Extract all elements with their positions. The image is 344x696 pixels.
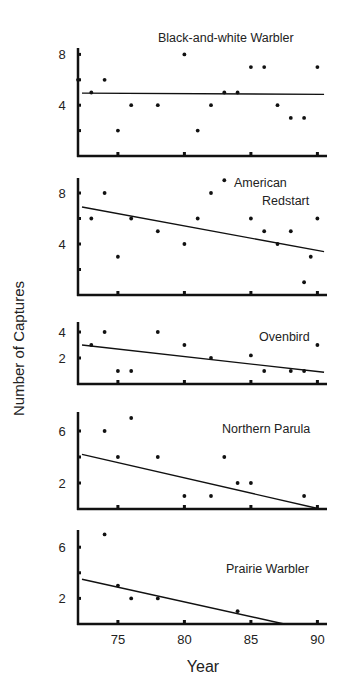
- y-tick-label: 4: [58, 325, 65, 340]
- x-tick-mark: [249, 380, 252, 384]
- data-point: [236, 609, 240, 613]
- y-tick-mark: [78, 217, 81, 220]
- data-point: [196, 129, 200, 133]
- data-point: [209, 103, 213, 107]
- x-tick-mark: [249, 152, 252, 156]
- y-tick-label: 4: [58, 98, 65, 113]
- data-point: [249, 481, 253, 485]
- data-point: [196, 217, 200, 221]
- data-point: [262, 229, 266, 233]
- data-point: [316, 343, 320, 347]
- data-point: [116, 455, 120, 459]
- data-point: [276, 103, 280, 107]
- y-tick-mark: [78, 192, 81, 195]
- data-point: [236, 481, 240, 485]
- data-point: [209, 356, 213, 360]
- data-point: [116, 369, 120, 373]
- data-point: [236, 91, 240, 95]
- data-point: [103, 191, 107, 195]
- data-point: [89, 343, 93, 347]
- data-point: [76, 78, 80, 82]
- trend-line: [82, 579, 284, 624]
- y-tick-label: 6: [58, 540, 65, 555]
- data-point: [183, 494, 187, 498]
- y-tick-label: 8: [58, 186, 65, 201]
- data-point: [129, 416, 133, 420]
- trend-line: [82, 207, 324, 252]
- y-tick-mark: [78, 430, 81, 433]
- y-tick-label: 2: [58, 591, 65, 606]
- y-tick-mark: [78, 571, 81, 574]
- x-tick-mark: [316, 152, 319, 156]
- panel-title: Black-and-white Warbler: [158, 31, 294, 45]
- x-tick-mark: [116, 291, 119, 295]
- data-point: [156, 455, 160, 459]
- x-axis-label: Year: [187, 658, 220, 675]
- panel-title: Northern Parula: [222, 422, 310, 436]
- x-tick-mark: [183, 380, 186, 384]
- data-point: [116, 584, 120, 588]
- x-tick-label: 85: [244, 632, 258, 647]
- y-tick-mark: [78, 482, 81, 485]
- panel-ovenbird: 24Ovenbird: [58, 322, 327, 385]
- data-point: [289, 369, 293, 373]
- panel-title: American: [234, 176, 287, 190]
- data-point: [309, 255, 313, 259]
- panel-title: Redstart: [262, 194, 310, 208]
- x-tick-mark: [316, 380, 319, 384]
- x-tick-mark: [116, 152, 119, 156]
- y-tick-mark: [78, 268, 81, 271]
- data-point: [156, 597, 160, 601]
- data-point: [316, 217, 320, 221]
- data-point: [302, 369, 306, 373]
- y-tick-mark: [78, 597, 81, 600]
- x-tick-mark: [249, 291, 252, 295]
- data-point: [302, 280, 306, 284]
- y-tick-mark: [78, 53, 81, 56]
- data-point: [129, 369, 133, 373]
- x-tick-mark: [116, 505, 119, 509]
- x-tick-mark: [316, 620, 319, 624]
- data-point: [103, 330, 107, 334]
- data-point: [289, 229, 293, 233]
- data-point: [103, 429, 107, 433]
- data-point: [183, 242, 187, 246]
- figure: 48Black-and-white Warbler48AmericanRedst…: [0, 0, 344, 696]
- data-point: [129, 597, 133, 601]
- x-tick-label: 90: [310, 632, 324, 647]
- x-tick-label: 75: [111, 632, 125, 647]
- data-point: [156, 229, 160, 233]
- data-point: [249, 354, 253, 358]
- data-point: [103, 78, 107, 82]
- data-point: [262, 369, 266, 373]
- trend-line: [82, 454, 320, 509]
- data-point: [89, 217, 93, 221]
- panel-black-and-white-warbler: 48Black-and-white Warbler: [58, 31, 327, 157]
- data-point: [116, 129, 120, 133]
- data-point: [289, 116, 293, 120]
- x-tick-mark: [249, 505, 252, 509]
- data-point: [276, 242, 280, 246]
- trend-line: [82, 345, 324, 372]
- data-point: [249, 65, 253, 69]
- y-tick-mark: [78, 456, 81, 459]
- y-tick-mark: [78, 243, 81, 246]
- data-point: [103, 533, 107, 537]
- data-point: [262, 65, 266, 69]
- y-tick-mark: [78, 104, 81, 107]
- panel-prairie-warbler: 26Prairie Warbler: [58, 530, 327, 625]
- x-tick-mark: [116, 620, 119, 624]
- y-tick-label: 2: [58, 351, 65, 366]
- x-tick-mark: [183, 505, 186, 509]
- x-tick-mark: [249, 620, 252, 624]
- x-tick-mark: [183, 291, 186, 295]
- data-point: [156, 330, 160, 334]
- data-point: [209, 191, 213, 195]
- data-point: [222, 455, 226, 459]
- data-point: [156, 103, 160, 107]
- data-point: [302, 494, 306, 498]
- data-point: [209, 494, 213, 498]
- y-tick-label: 8: [58, 47, 65, 62]
- x-tick-mark: [316, 291, 319, 295]
- y-tick-mark: [78, 357, 81, 360]
